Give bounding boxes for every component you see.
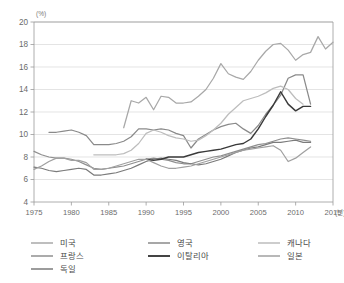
legend-item-일본[interactable]: 일본 [258,251,303,261]
legend-label-독일: 독일 [60,264,76,274]
legend-item-프랑스[interactable]: 프랑스 [31,251,84,261]
x-tick-label: 2010 [287,208,304,217]
legend-label-프랑스: 프랑스 [60,251,84,261]
series-line-이탈리아 [146,92,310,161]
legend-item-독일[interactable]: 독일 [31,264,76,274]
x-axis-ticks: 197519801985199019952000200520102015 [26,202,342,217]
x-tick-label: 1980 [63,208,80,217]
series-line-프랑스 [34,138,311,170]
legend-label-이탈리아: 이탈리아 [177,251,209,261]
legend-item-캐나다[interactable]: 캐나다 [258,238,311,248]
y-tick-label: 14 [19,85,29,94]
legend-label-일본: 일본 [287,251,303,261]
chart-container: 468101214161820 197519801985199019952000… [0,0,344,283]
y-axis-ticks: 468101214161820 [19,18,34,207]
x-axis-unit-label: (년) [335,208,344,217]
y-tick-label: 4 [23,198,28,207]
axis-labels: (%)(년) [36,10,344,217]
legend-item-이탈리아[interactable]: 이탈리아 [148,251,209,261]
x-tick-label: 2000 [212,208,229,217]
y-tick-label: 10 [19,130,29,139]
x-tick-label: 1995 [175,208,192,217]
legend-label-미국: 미국 [60,238,76,248]
y-axis-unit-label: (%) [36,10,46,18]
y-tick-label: 18 [19,40,29,49]
legend-label-영국: 영국 [177,238,193,248]
legend-label-캐나다: 캐나다 [287,238,311,248]
x-tick-label: 1990 [138,208,155,217]
line-chart: 468101214161820 197519801985199019952000… [0,0,344,283]
x-tick-label: 1985 [100,208,117,217]
x-tick-label: 1975 [26,208,43,217]
y-tick-label: 8 [23,153,28,162]
legend-item-미국[interactable]: 미국 [31,238,76,248]
series-line-영국 [49,75,311,148]
y-tick-label: 20 [19,18,29,27]
series-lines [34,37,333,175]
grid-lines [34,22,333,180]
x-tick-label: 2005 [250,208,267,217]
legend-item-영국[interactable]: 영국 [148,238,193,248]
y-tick-label: 12 [19,108,29,117]
y-tick-label: 16 [19,63,29,72]
chart-legend: 미국영국캐나다프랑스이탈리아일본독일 [31,238,311,274]
y-tick-label: 6 [23,175,28,184]
